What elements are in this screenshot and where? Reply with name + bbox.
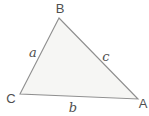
side-label-c: c: [102, 49, 110, 64]
triangle-svg: B C A a b c: [0, 0, 149, 116]
side-label-b: b: [69, 100, 77, 115]
side-label-a: a: [29, 45, 37, 60]
vertex-label-c: C: [6, 91, 15, 106]
triangle-diagram: B C A a b c: [0, 0, 149, 116]
vertex-label-b: B: [56, 1, 65, 16]
triangle-shape: [20, 18, 138, 99]
vertex-label-a: A: [139, 96, 148, 111]
